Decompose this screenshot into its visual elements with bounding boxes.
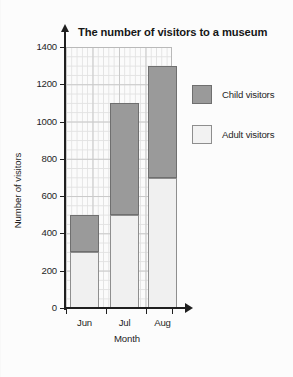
y-axis-tick-label: 600 [42,190,57,201]
x-axis-tick [106,308,107,314]
y-axis-title: Number of visitors [12,141,23,241]
x-axis-title: Month [82,333,172,344]
x-axis-tick [66,308,67,314]
legend-item-adult[interactable]: Adult visitors [192,125,274,144]
x-axis-tick [146,308,147,314]
bar-segment-adult[interactable] [148,178,177,309]
arrow-right-icon [185,303,193,313]
y-axis-tick-label: 0 [52,302,57,313]
bar-segment-child[interactable] [70,215,99,252]
bar-jul[interactable] [110,103,139,308]
y-axis-tick [60,271,66,272]
child-swatch-icon [192,85,212,104]
x-axis-tick [172,308,173,314]
y-axis-tick-label: 400 [42,227,57,238]
bar-segment-adult[interactable] [70,252,99,308]
grid-top-edge [66,47,172,48]
y-axis-tick [60,122,66,123]
x-axis-line [64,307,186,309]
y-axis-tick [60,196,66,197]
bar-jun[interactable] [70,215,99,308]
y-axis-tick [60,47,66,48]
y-axis-tick [60,84,66,85]
plot-area [66,47,172,308]
y-axis-tick-label: 1000 [36,116,57,127]
arrow-up-icon [61,24,69,32]
x-axis-tick-label: Aug [143,317,183,328]
legend-label: Adult visitors [222,129,274,140]
x-axis-tick-label: Jul [105,317,145,328]
y-axis-tick-label: 800 [42,153,57,164]
y-axis-tick [60,233,66,234]
y-axis-line [64,30,66,310]
page-title: The number of visitors to a museum [78,26,288,39]
bar-segment-child[interactable] [110,103,139,215]
y-axis-tick-label: 200 [42,265,57,276]
bar-segment-child[interactable] [148,66,177,178]
legend-item-child[interactable]: Child visitors [192,85,274,104]
y-axis-tick [60,159,66,160]
legend-label: Child visitors [222,89,274,100]
x-axis-tick-label: Jun [65,317,105,328]
legend: Child visitors Adult visitors [192,85,274,165]
y-axis-tick-label: 1200 [36,78,57,89]
y-axis-tick-label: 1400 [36,41,57,52]
bar-aug[interactable] [148,66,177,308]
bar-segment-adult[interactable] [110,215,139,308]
adult-swatch-icon [192,125,212,144]
